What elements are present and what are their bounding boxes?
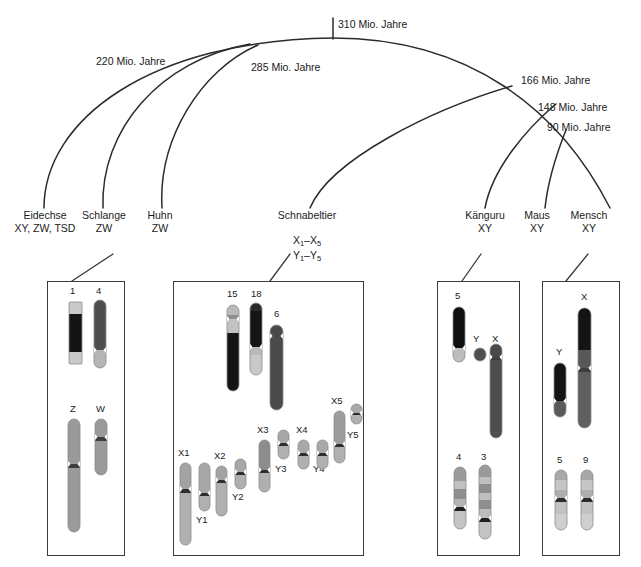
chromosome-label-x: X (581, 292, 587, 302)
arc-schnabeltier (310, 86, 512, 208)
chromosome-x (488, 342, 504, 440)
species-sexsystem-maus: XY (515, 222, 559, 235)
time-label-t285: 285 Mio. Jahre (251, 61, 320, 73)
chromosome-w (93, 417, 109, 477)
species-label-schnabeltier-sexsystem: X1–X5 Y1–Y5 (260, 234, 354, 263)
species-sexsystem-schlange: ZW (74, 222, 134, 235)
species-sexsystem-huhn: ZW (135, 222, 185, 235)
box-huhn (47, 281, 125, 556)
chromosome-label-9: 9 (583, 455, 588, 465)
time-label-t310: 310 Mio. Jahre (338, 18, 407, 30)
chromosome-label-y: Y (556, 347, 562, 357)
chromosome-1 (67, 300, 84, 366)
species-name-schlange: Schlange (74, 209, 134, 222)
chromosome-5 (553, 468, 569, 532)
chromosome-label-x1: X1 (178, 448, 190, 458)
species-sexsystem-eidechse: XY, ZW, TSD (8, 222, 82, 235)
chromosome-15 (225, 303, 241, 393)
chromosome-x4 (296, 438, 311, 471)
chromosome-y4 (315, 438, 330, 471)
species-name-mensch: Mensch (561, 209, 617, 222)
arc-huhn (162, 45, 258, 208)
chromosome-x (576, 306, 593, 430)
chromosome-3 (477, 463, 493, 541)
species-label-kaenguru: KänguruXY (456, 209, 514, 234)
chromosome-label-y: Y (473, 334, 479, 344)
species-name-huhn: Huhn (135, 209, 185, 222)
platypus-y-range: Y1–Y5 (260, 249, 354, 264)
connector-mensch-box (566, 254, 588, 281)
chromosome-x5 (332, 409, 347, 465)
species-label-maus: MausXY (515, 209, 559, 234)
species-label-eidechse: EidechseXY, ZW, TSD (8, 209, 82, 234)
time-label-t90: 90 Mio. Jahre (547, 121, 611, 133)
chromosome-label-4: 4 (456, 452, 461, 462)
chromosome-label-5: 5 (455, 291, 460, 301)
chromosome-label-4: 4 (96, 286, 101, 296)
species-sexsystem-kaenguru: XY (456, 222, 514, 235)
chromosome-y1 (197, 461, 212, 513)
chromosome-label-1: 1 (70, 286, 75, 296)
chromosome-y3 (276, 428, 291, 461)
chromosome-label-x3: X3 (257, 425, 269, 435)
chromosome-label-y2: Y2 (232, 492, 244, 502)
chromosome-label-x5: X5 (331, 396, 343, 406)
chromosome-label-y5: Y5 (347, 430, 359, 440)
species-name-kaenguru: Känguru (456, 209, 514, 222)
chromosome-x3 (257, 438, 272, 494)
chromosome-5 (451, 305, 467, 364)
chromosome-label-x2: X2 (214, 451, 226, 461)
chromosome-label-w: W (96, 404, 105, 414)
chromosome-9 (579, 468, 595, 532)
chromosome-label-15: 15 (227, 289, 238, 299)
chromosome-label-18: 18 (251, 289, 262, 299)
chromosome-18 (248, 301, 264, 377)
species-label-schnabeltier: Schnabeltier (260, 209, 354, 222)
arc-maus (545, 130, 566, 208)
chromosome-4 (452, 465, 468, 531)
chromosome-z (66, 417, 82, 534)
arc-schlange (103, 44, 250, 208)
chromosome-y2 (233, 457, 248, 491)
chromosome-y (472, 346, 488, 363)
chromosome-label-5: 5 (557, 455, 562, 465)
chromosome-label-6: 6 (274, 309, 279, 319)
chromosome-label-y3: Y3 (275, 464, 287, 474)
species-name-eidechse: Eidechse (8, 209, 82, 222)
time-label-t148: 148 Mio. Jahre (538, 101, 607, 113)
chromosome-4 (92, 298, 108, 370)
connector-kaenguru-box (462, 254, 481, 281)
species-label-schlange: SchlangeZW (74, 209, 134, 234)
chromosome-y (552, 361, 568, 419)
chromosome-label-x4: X4 (296, 425, 308, 435)
chromosome-label-z: Z (70, 404, 76, 414)
connector-huhn-box (72, 254, 113, 281)
chromosome-label-3: 3 (481, 452, 486, 462)
species-sexsystem-mensch: XY (561, 222, 617, 235)
figure-canvas: 310 Mio. Jahre220 Mio. Jahre285 Mio. Jah… (0, 0, 641, 567)
species-label-mensch: MenschXY (561, 209, 617, 234)
chromosome-6 (268, 323, 285, 412)
species-name-maus: Maus (515, 209, 559, 222)
chromosome-y5 (349, 402, 364, 426)
chromosome-x1 (178, 461, 193, 547)
chromosome-x2 (214, 464, 229, 518)
species-label-huhn: HuhnZW (135, 209, 185, 234)
time-label-t220: 220 Mio. Jahre (96, 55, 165, 67)
chromosome-label-y1: Y1 (196, 515, 208, 525)
time-label-t166: 166 Mio. Jahre (521, 74, 590, 86)
species-name-schnabeltier: Schnabeltier (260, 209, 354, 222)
platypus-x-range: X1–X5 (260, 234, 354, 249)
